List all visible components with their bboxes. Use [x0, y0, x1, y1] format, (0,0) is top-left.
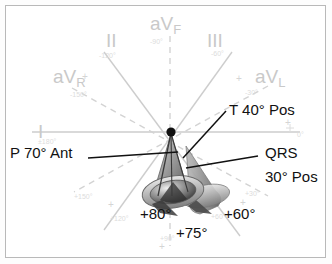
annotation-t-wave: T 40° Pos: [229, 102, 295, 117]
angle-tick-120: +120°: [110, 215, 129, 222]
lead-label-II: II: [106, 31, 117, 50]
lead-label-aVR: aVR: [53, 67, 86, 86]
vector-label-qrs-angle: +60°: [224, 206, 255, 221]
annotation-p-wave: P 70° Ant: [10, 145, 72, 160]
leader-line-t: [183, 111, 226, 158]
angle-tick-II: -120°: [99, 52, 116, 59]
polarity-plus-0: +: [285, 118, 291, 128]
lead-label-III: III: [207, 31, 223, 50]
polarity-plus-aVL: +: [236, 74, 242, 84]
angle-tick-30: +30°: [245, 190, 260, 197]
annotation-qrs: QRS: [265, 145, 298, 160]
polarity-plus-120: +: [108, 200, 114, 210]
origin-point: [166, 127, 175, 136]
annotation-qrs-angle: 30° Pos: [265, 169, 318, 184]
angle-tick-aVR: -150°: [70, 91, 87, 98]
angle-tick-aVL: -30°: [245, 89, 258, 96]
vector-label-p-angle: +80°: [140, 206, 171, 221]
angle-tick-III: -60°: [211, 50, 224, 57]
vector-label-t-angle: +75°: [176, 225, 207, 240]
angle-tick-aVF: -90°: [150, 38, 163, 45]
polarity-plus-aVR: +: [82, 72, 88, 82]
polarity-plus-90: +: [159, 242, 165, 252]
lead-label-aVL: aVL: [255, 67, 285, 86]
vector-loop-graphic: [0, 0, 332, 264]
angle-tick-0: 0°: [297, 131, 304, 138]
ecg-hexaxial-figure: aVF II III aVR aVL I -90° -120° -60° -15…: [0, 0, 332, 264]
lead-label-aVF: aVF: [150, 14, 181, 33]
angle-tick-150: +150°: [74, 193, 93, 200]
